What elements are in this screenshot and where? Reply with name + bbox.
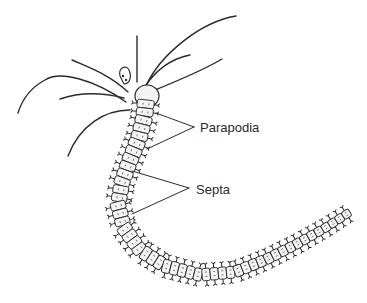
label-septa: Septa [196, 183, 230, 196]
body-segment [226, 261, 236, 284]
label-parapodia: Parapodia [200, 121, 259, 134]
worm-diagram: Parapodia Septa [0, 0, 367, 303]
pointer-line-septa [132, 171, 189, 188]
worm-illustration [0, 0, 367, 303]
body-segment [217, 261, 227, 285]
body-segment [209, 262, 219, 286]
body-segment [201, 262, 211, 286]
antennae [18, 16, 236, 156]
pointer-line-septa [132, 188, 189, 214]
pointer-line-parapodia [156, 113, 194, 127]
